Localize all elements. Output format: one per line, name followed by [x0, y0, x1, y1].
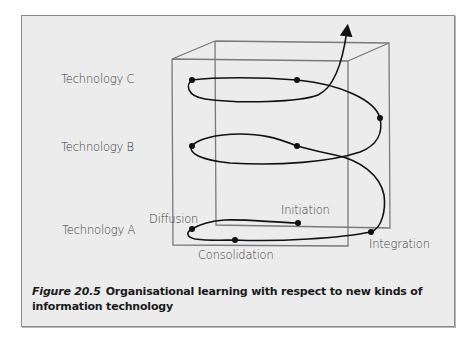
dot-b-mid	[294, 143, 300, 149]
label-integration: Integration	[369, 237, 430, 251]
label-technology-a: Technology A	[62, 223, 135, 237]
label-initiation: Initiation	[281, 203, 330, 217]
dot-consolidation	[232, 237, 238, 243]
dot-diffusion	[189, 226, 195, 232]
label-diffusion: Diffusion	[149, 212, 198, 226]
figure-number: Figure 20.5	[32, 285, 101, 298]
dot-initiation	[295, 220, 301, 226]
dot-right	[377, 115, 383, 121]
figure-caption: Figure 20.5Organisational learning with …	[32, 284, 432, 314]
label-consolidation: Consolidation	[198, 248, 274, 262]
stage-dots	[189, 77, 383, 243]
dot-b-left	[189, 143, 195, 149]
label-technology-b: Technology B	[61, 140, 134, 154]
dot-c-mid	[294, 77, 300, 83]
label-technology-c: Technology C	[61, 72, 134, 86]
dot-integration	[368, 229, 374, 235]
dot-c-left	[189, 77, 195, 83]
